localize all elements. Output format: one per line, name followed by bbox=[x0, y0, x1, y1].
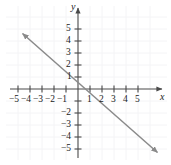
x-tick-label-4: 4 bbox=[123, 95, 128, 105]
y-tick-label-1: 1 bbox=[67, 72, 72, 82]
y-tick-label--4: −4 bbox=[61, 132, 71, 142]
coordinate-plane-figure: −5 −4 −3 −2 −1 1 2 3 4 5 5 4 3 2 1 −2 −3… bbox=[0, 0, 171, 165]
x-tick-label--4: −4 bbox=[21, 95, 31, 105]
y-tick-label-2: 2 bbox=[66, 60, 71, 70]
background-grid bbox=[6, 6, 167, 160]
y-tick-label-4: 4 bbox=[66, 36, 71, 46]
x-tick-label-1: 1 bbox=[87, 95, 92, 105]
x-axis-label: x bbox=[160, 92, 164, 102]
y-tick-label-3: 3 bbox=[66, 48, 71, 58]
y-tick-label--5: −5 bbox=[61, 144, 71, 154]
x-tick-label-3: 3 bbox=[111, 95, 116, 105]
x-tick-label--1: −1 bbox=[57, 95, 67, 105]
x-tick-label-5: 5 bbox=[135, 95, 140, 105]
x-tick-label--5: −5 bbox=[9, 95, 19, 105]
x-tick-label--3: −3 bbox=[33, 95, 43, 105]
y-tick-label--3: −3 bbox=[61, 120, 71, 130]
y-tick-label-5: 5 bbox=[66, 24, 71, 34]
x-tick-label--2: −2 bbox=[45, 95, 55, 105]
graph-canvas bbox=[0, 0, 171, 165]
y-tick-label--2: −2 bbox=[61, 108, 71, 118]
x-tick-label-2: 2 bbox=[99, 95, 104, 105]
y-axis-label: y bbox=[71, 2, 75, 12]
